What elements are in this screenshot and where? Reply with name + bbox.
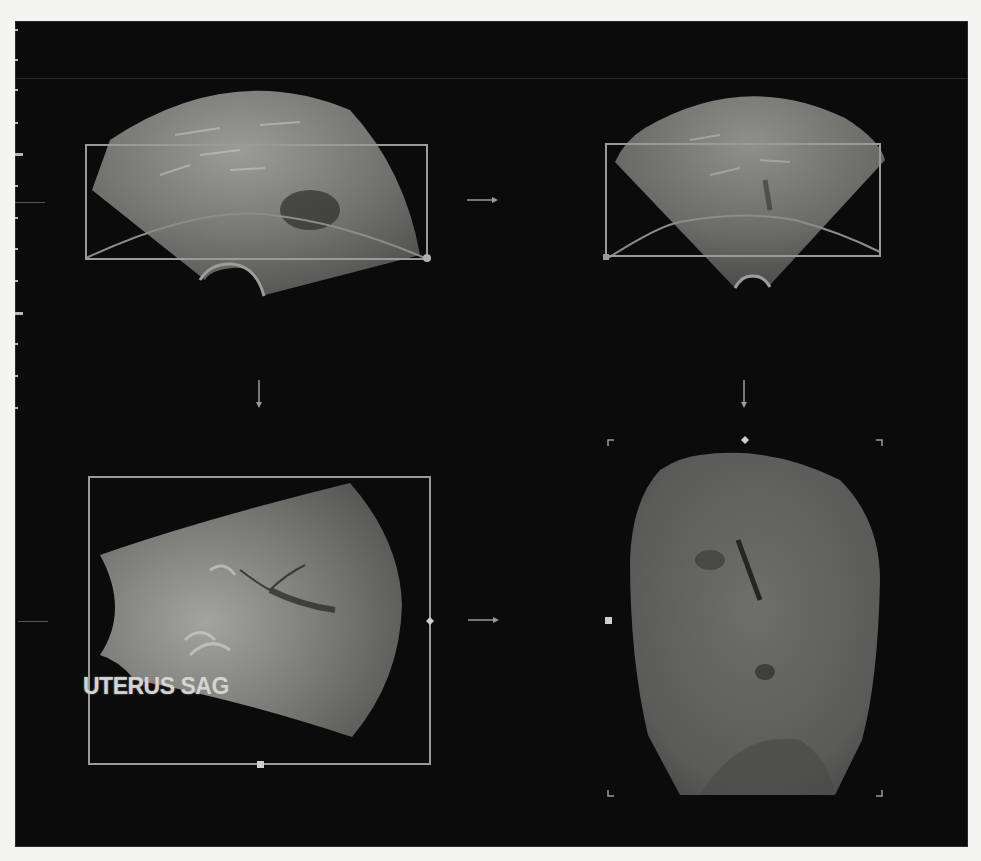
sector-bottom-left — [89, 477, 434, 768]
divider-line — [15, 78, 968, 79]
sector-top-right — [603, 96, 885, 288]
sector-top-left — [86, 91, 431, 296]
figure-canvas — [0, 0, 981, 861]
uterus-sag-label: UTERUS SAG — [83, 673, 229, 700]
roi-handle-bottom[interactable] — [257, 761, 264, 768]
roi-handle[interactable] — [603, 254, 609, 260]
render-handle-top[interactable] — [741, 436, 749, 444]
render-bottom-right — [605, 436, 882, 796]
roi-handle[interactable] — [423, 254, 431, 262]
render-handle-left[interactable] — [605, 617, 612, 624]
depth-ruler — [15, 29, 48, 622]
roi-handle-right[interactable] — [426, 617, 434, 625]
